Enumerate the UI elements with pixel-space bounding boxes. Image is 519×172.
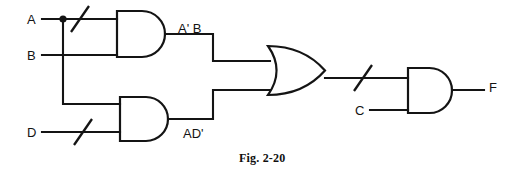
junction-dot-a (59, 15, 66, 22)
junction-dot-layer (59, 15, 66, 22)
wire-layer (42, 19, 484, 132)
node-label-and1-output: A' B (178, 22, 201, 35)
node-label-and2-output: AD' (183, 127, 204, 140)
and-gate-2 (120, 97, 168, 141)
input-label-d: D (27, 126, 36, 139)
and-gate-3 (408, 68, 452, 113)
wire-and2-out-to-or (168, 90, 270, 119)
gate-layer (117, 11, 452, 141)
input-label-c: C (355, 104, 364, 117)
wire-and1-out-to-or (165, 34, 270, 61)
input-label-b: B (27, 49, 36, 62)
and-gate-1 (117, 11, 165, 57)
output-label-f: F (489, 81, 497, 94)
input-label-a: A (27, 13, 36, 26)
circuit-diagram-canvas (0, 0, 519, 172)
figure-caption: Fig. 2-20 (239, 152, 285, 164)
or-gate-1 (268, 46, 325, 95)
logic-circuit-figure: A B D C A' B AD' F Fig. 2-20 (0, 0, 519, 172)
